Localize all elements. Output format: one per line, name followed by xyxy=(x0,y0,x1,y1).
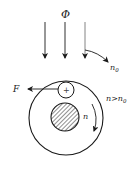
field-rotation-arrow xyxy=(85,50,108,62)
condition-label: n>n0 xyxy=(106,94,127,104)
induction-motor-diagram: Φ n0 + F n n>n0 xyxy=(0,0,140,170)
shaft-hatched xyxy=(51,103,79,131)
flux-label: Φ xyxy=(61,8,70,21)
flux-arrows xyxy=(45,22,85,58)
rotor-rotation-arrow xyxy=(92,104,96,131)
n0-label: n0 xyxy=(110,63,119,73)
force-label: F xyxy=(12,84,20,94)
conductor-symbol: + xyxy=(63,86,70,95)
rotation-label: n xyxy=(83,112,88,121)
